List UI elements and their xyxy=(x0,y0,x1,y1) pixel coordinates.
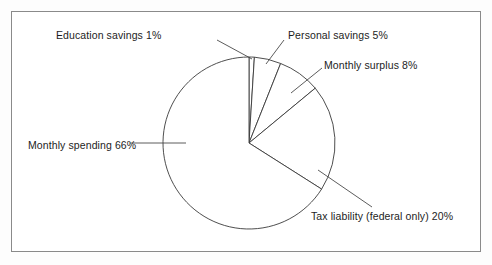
leader-line-education-savings xyxy=(217,40,252,59)
pie-label-education-savings: Education savings 1% xyxy=(56,29,161,42)
pie-label-tax-liability: Tax liability (federal only) 20% xyxy=(311,210,453,223)
leader-line-tax-liability xyxy=(318,170,372,207)
pie-label-monthly-spending: Monthly spending 66% xyxy=(28,139,136,152)
leader-line-personal-savings xyxy=(266,40,284,64)
pie-chart-screenshot: Education savings 1% Personal savings 5%… xyxy=(0,0,492,265)
pie-label-monthly-surplus: Monthly surplus 8% xyxy=(324,59,417,72)
pie-label-personal-savings: Personal savings 5% xyxy=(288,29,388,42)
